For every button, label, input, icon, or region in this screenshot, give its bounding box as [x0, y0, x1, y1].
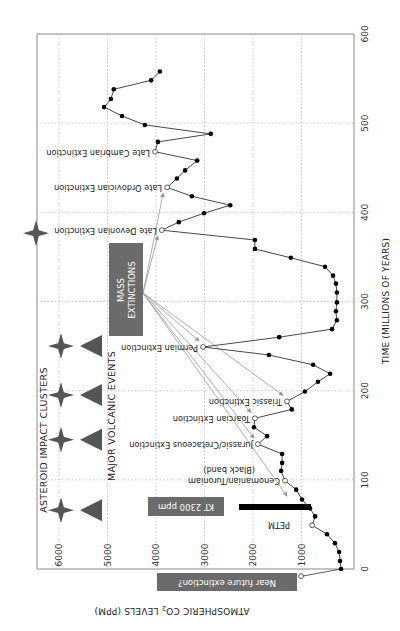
data-point [313, 514, 318, 519]
data-point [228, 203, 233, 208]
time-tick-label: 300 [360, 293, 370, 310]
co2-tick-label: 3000 [200, 543, 210, 566]
co2-extinction-chart: 0100200300400500600 10002000300040005000… [0, 0, 400, 631]
kt-annotation: KT 2300 ppm [148, 497, 311, 516]
co2-tick-label: 5000 [103, 543, 113, 566]
data-point [156, 140, 161, 145]
data-point [308, 506, 313, 511]
data-point [330, 327, 335, 332]
co2-axis-ticks: 100020003000400050006000 [54, 543, 307, 566]
extinction-point [253, 416, 258, 421]
extinction-point [255, 442, 260, 447]
data-point [109, 97, 114, 102]
co2-axis-title: ATMOSPHERIC CO2 LEVELS (PPM) [94, 604, 249, 616]
extinction-point [159, 228, 164, 233]
data-point [280, 452, 285, 457]
volcano-triangle-icon [80, 499, 102, 521]
asteroid-star-icon [48, 333, 74, 359]
major-volcanic-events-title: MAJOR VOLCANIC EVENTS [106, 351, 117, 481]
label-late-ordovician: Late Ordovician Extinction [54, 183, 162, 193]
data-point [253, 238, 258, 243]
label-jurassic-cretaceous: Jurassic/Cretaceous Extinction [129, 440, 254, 450]
label-late-devonian: Late Devonian Extinction [54, 226, 157, 236]
asteroid-star-icon [48, 497, 74, 523]
data-point [265, 434, 270, 439]
data-point [334, 309, 339, 314]
extinction-point [285, 399, 290, 404]
data-point [158, 69, 163, 74]
data-point [277, 335, 282, 340]
co2-tick-label: 1000 [297, 543, 307, 566]
time-tick-label: 100 [360, 471, 370, 488]
data-point [323, 264, 328, 269]
extinction-point [299, 574, 304, 579]
mass-extinctions-line1: MASS [116, 278, 126, 302]
data-point [337, 550, 342, 555]
mass-extinctions-box: MASS EXTINCTIONS [109, 243, 143, 336]
asteroid-star-icon [23, 220, 49, 246]
data-point [334, 281, 339, 286]
asteroid-star-icon [48, 382, 74, 408]
arrow [143, 293, 199, 341]
data-point [328, 371, 333, 376]
near-future-annotation: Near future extinction? [157, 569, 341, 591]
kt-bar [239, 504, 311, 510]
data-point [183, 168, 188, 173]
data-point [294, 487, 299, 492]
data-point [303, 389, 308, 394]
data-point [267, 353, 272, 358]
arrow [143, 236, 158, 293]
time-tick-label: 600 [360, 25, 370, 42]
data-point [209, 132, 214, 137]
data-point [333, 541, 338, 546]
time-axis-title: TIME (MILLIONS OF YEARS) [381, 238, 391, 365]
data-point [289, 255, 294, 260]
label-cenomanian: Cenomanian/Turoniam [188, 476, 280, 486]
volcano-triangle-icon [80, 335, 102, 357]
extinction-point [201, 345, 206, 350]
plot-area [37, 34, 354, 569]
data-point [252, 425, 257, 430]
extinction-point [283, 478, 288, 483]
data-point [335, 318, 340, 323]
data-point [202, 211, 207, 216]
extinction-point [153, 149, 158, 154]
data-point [325, 532, 330, 537]
arrow [143, 193, 163, 293]
label-late-cambrian: Late Cambrian Extinction [46, 148, 150, 158]
data-point [338, 559, 343, 564]
data-point [290, 407, 295, 412]
data-point [300, 497, 305, 502]
time-tick-label: 200 [360, 382, 370, 399]
data-point [149, 78, 154, 83]
data-point [190, 194, 195, 199]
data-point [175, 176, 180, 181]
grid-lines [37, 34, 354, 569]
asteroid-star-icon [48, 427, 74, 453]
near-future-label: Near future extinction? [178, 578, 276, 588]
data-point [112, 87, 117, 92]
volcano-triangle-icon [80, 429, 102, 451]
time-axis-ticks: 0100200300400500600 [360, 25, 370, 572]
time-tick-label: 0 [360, 566, 370, 572]
mass-extinctions-line2: EXTINCTIONS [127, 261, 137, 318]
volcanic-event-markers [80, 335, 102, 521]
data-point [253, 247, 258, 252]
data-point [176, 220, 181, 225]
time-tick-label: 400 [360, 203, 370, 220]
data-point [311, 363, 316, 368]
data-point [339, 567, 344, 572]
asteroid-impact-clusters-title: ASTEROID IMPACT CLUSTERS [38, 367, 49, 513]
data-point [102, 105, 107, 110]
volcano-triangle-icon [80, 384, 102, 406]
label-toarcian: Toarcian Extinction [173, 414, 251, 424]
event-labels: PETM Cenomanian/Turoniam (Black band) Ju… [46, 148, 290, 530]
data-point [331, 273, 336, 278]
co2-tick-label: 6000 [54, 543, 64, 566]
extinction-point [310, 523, 315, 528]
data-point [335, 300, 340, 305]
co2-tick-label: 2000 [248, 543, 258, 566]
time-tick-label: 500 [360, 114, 370, 131]
kt-label: KT 2300 ppm [158, 502, 214, 512]
extinction-point [165, 185, 170, 190]
